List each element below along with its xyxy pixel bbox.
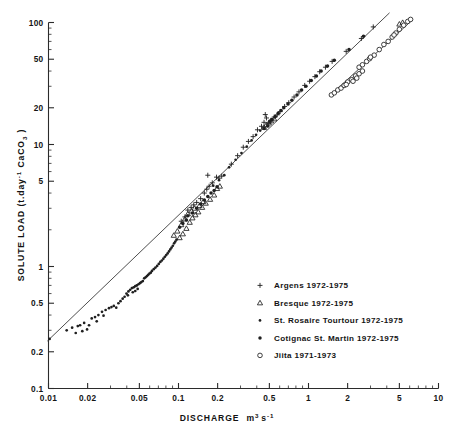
- y-tick-label: 1: [39, 262, 44, 272]
- x-tick-label: 5: [397, 393, 402, 403]
- x-tick-label: 2: [345, 393, 350, 403]
- x-axis-ticks: [49, 383, 439, 389]
- series-bresque-1972-1975: [171, 20, 405, 240]
- legend-label: Cotignac St. Martin 1972-1975: [274, 334, 399, 343]
- x-tick-label: 0.1: [172, 393, 185, 403]
- legend-item: Bresque 1972-1975: [257, 299, 353, 308]
- svg-text:SOLUTE LOAD (t.day-1 CaCO3 ): SOLUTE LOAD (t.day-1 CaCO3 ): [15, 129, 28, 282]
- y-tick-label: 10: [34, 140, 44, 150]
- regression-lines: [47, 13, 412, 341]
- chart-legend: Argens 1972-1975Bresque 1972-1975St. Ros…: [257, 281, 403, 360]
- x-tick-label: 0.05: [131, 393, 148, 403]
- y-tick-label: 0.5: [31, 298, 44, 308]
- y-tick-label: 5: [39, 176, 44, 186]
- x-tick-label: 0.02: [79, 393, 96, 403]
- y-tick-label: 50: [34, 54, 44, 64]
- x-tick-label: 0.5: [263, 393, 276, 403]
- y-axis-tick-labels: 0.10.20.515102050100: [29, 18, 44, 394]
- y-axis-ticks: [49, 23, 55, 389]
- legend-item: St. Rosaire Tourtour 1972-1975: [259, 316, 404, 325]
- legend-item: Jiita 1971-1973: [258, 351, 337, 360]
- x-tick-label: 0.2: [211, 393, 224, 403]
- y-axis-title: SOLUTE LOAD (t.day-1 CaCO3 ): [15, 129, 28, 282]
- legend-item: Cotignac St. Martin 1972-1975: [258, 334, 399, 343]
- y-tick-label: 20: [34, 103, 44, 113]
- series-st-rosaire-tourtour-1972-1975: [48, 129, 261, 340]
- legend-item: Argens 1972-1975: [258, 281, 349, 290]
- x-tick-label: 1: [306, 393, 311, 403]
- x-tick-label: 10: [434, 393, 444, 403]
- x-tick-label: 0.01: [40, 393, 57, 403]
- y-tick-label: 0.2: [31, 347, 44, 357]
- svg-text:DISCHARGEm3s-1: DISCHARGEm3s-1: [180, 412, 275, 423]
- legend-label: Bresque 1972-1975: [274, 299, 353, 308]
- data-points: [48, 17, 413, 340]
- y-tick-label: 100: [29, 18, 44, 28]
- x-axis-title: DISCHARGEm3s-1: [180, 412, 275, 423]
- legend-label: Jiita 1971-1973: [274, 351, 337, 360]
- legend-label: St. Rosaire Tourtour 1972-1975: [274, 316, 403, 325]
- series-cotignac-st-martin-1972-1975: [178, 35, 365, 229]
- figure-container: 0.10.20.515102050100 0.010.020.050.10.20…: [0, 0, 455, 441]
- series-jiita-1971-1973: [329, 17, 413, 97]
- log-log-scatter-chart: 0.10.20.515102050100 0.010.020.050.10.20…: [0, 0, 455, 441]
- legend-label: Argens 1972-1975: [274, 281, 349, 290]
- x-axis-tick-labels: 0.010.020.050.10.20.512510: [40, 393, 444, 403]
